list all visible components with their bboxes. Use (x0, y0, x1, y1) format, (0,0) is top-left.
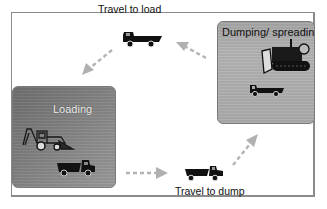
arrow-dumping-to-travel-to-load (186, 47, 206, 58)
dump-truck-loaded-icon (185, 164, 225, 182)
dump-truck-icon (57, 159, 97, 177)
arrowhead-icon (156, 167, 168, 179)
backhoe-loader-icon (21, 125, 79, 153)
dump-truck-empty-icon (122, 31, 164, 49)
arrow-travel-to-load-to-loading (90, 50, 112, 68)
dump-truck-icon (250, 82, 286, 98)
bulldozer-icon (260, 37, 314, 77)
loading-stage-title: Loading (53, 103, 92, 115)
arrow-travel-to-dump-to-dumping (233, 144, 250, 165)
